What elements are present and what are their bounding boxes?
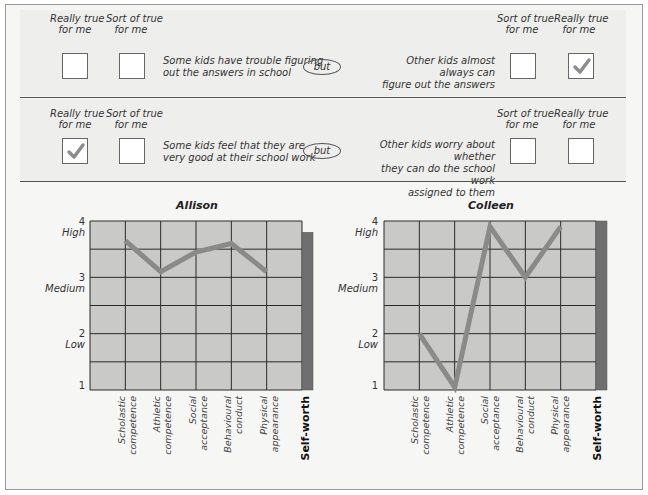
q2-left-sort-checkbox[interactable] xyxy=(119,138,145,164)
q2-left-really-label: Really truefor me xyxy=(50,108,100,130)
checkmark-icon xyxy=(66,141,86,161)
allison-xlabel-behavioural: Behaviouralconduct xyxy=(222,396,244,476)
colleen-xlabel-social: Socialacceptance xyxy=(479,396,501,476)
q2-right-statement: Other kids worry about whetherthey can d… xyxy=(355,139,495,199)
allison-chart-title: Allison xyxy=(137,199,257,212)
q1-left-statement: Some kids have trouble figuringout the a… xyxy=(163,55,323,79)
q1-right-sort-label: Sort of truefor me xyxy=(497,13,547,35)
q1-right-sort-checkbox[interactable] xyxy=(510,53,536,79)
q2-right-sort-checkbox[interactable] xyxy=(510,138,536,164)
colleen-ytick-4: 4High xyxy=(328,216,378,238)
allison-xlabel-scholastic: Scholasticcompetence xyxy=(116,396,138,476)
q2-right-really-checkbox[interactable] xyxy=(568,138,594,164)
colleen-xlabel-behavioural: Behaviouralconduct xyxy=(514,396,536,476)
colleen-chart-title: Colleen xyxy=(431,199,551,212)
allison-ytick-3: 3Medium xyxy=(35,272,85,294)
colleen-selfworth-bar xyxy=(596,221,607,390)
allison-xlabel-physical: Physicalappearance xyxy=(258,396,280,476)
q2-right-really-label: Really truefor me xyxy=(554,108,604,130)
allison-line-chart xyxy=(88,219,318,393)
colleen-xlabel-selfworth: Self-worth xyxy=(592,396,603,476)
allison-xlabel-social: Socialacceptance xyxy=(187,396,209,476)
colleen-xlabel-scholastic: Scholasticcompetence xyxy=(409,396,431,476)
q1-left-really-checkbox[interactable] xyxy=(62,53,88,79)
allison-ytick-2: 2Low xyxy=(35,328,85,350)
q2-left-really-checkbox[interactable] xyxy=(62,138,88,164)
q1-right-really-label: Really truefor me xyxy=(554,13,604,35)
q2-but-connector: but xyxy=(303,143,341,159)
q2-left-statement: Some kids feel that they arevery good at… xyxy=(163,140,316,164)
q1-right-really-checkbox[interactable] xyxy=(568,53,594,79)
colleen-xlabel-physical: Physicalappearance xyxy=(549,396,571,476)
allison-ytick-4: 4High xyxy=(35,216,85,238)
checkmark-icon xyxy=(572,56,592,76)
allison-ytick-1: 1 xyxy=(35,380,85,391)
colleen-ytick-3: 3Medium xyxy=(328,272,378,294)
q2-right-sort-label: Sort of truefor me xyxy=(497,108,547,130)
colleen-ytick-1: 1 xyxy=(328,380,378,391)
colleen-ytick-2: 2Low xyxy=(328,328,378,350)
colleen-line-chart xyxy=(382,219,612,393)
allison-selfworth-bar xyxy=(302,232,313,390)
allison-xlabel-selfworth: Self-worth xyxy=(300,396,311,476)
q2-left-sort-label: Sort of truefor me xyxy=(106,108,156,130)
q1-right-statement: Other kids almost always canfigure out t… xyxy=(370,55,495,91)
q1-but-connector: but xyxy=(303,59,341,75)
colleen-xlabel-athletic: Athleticcompetence xyxy=(444,396,466,476)
q1-left-really-label: Really truefor me xyxy=(50,13,100,35)
row-divider-1 xyxy=(20,97,626,98)
row-divider-2 xyxy=(20,181,626,182)
allison-xlabel-athletic: Athleticcompetence xyxy=(151,396,173,476)
q1-left-sort-label: Sort of truefor me xyxy=(106,13,156,35)
q1-left-sort-checkbox[interactable] xyxy=(119,53,145,79)
